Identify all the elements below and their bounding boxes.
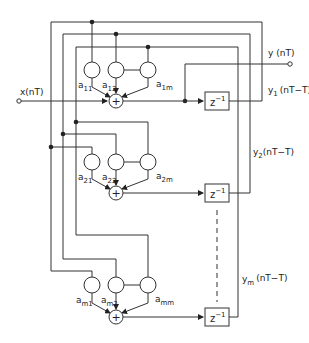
svg-text:am2: am2 xyxy=(101,295,118,308)
output-terminal xyxy=(288,62,292,66)
junction-dot xyxy=(114,32,119,37)
svg-text:+: + xyxy=(111,187,120,200)
coef-label: a12 xyxy=(102,80,116,93)
input-label: x(nT) xyxy=(20,87,44,97)
state-space-diagram: x(nT) y (nT) + a11 a12 a1m z−1 y1(nT−T) xyxy=(0,0,309,343)
feedback-bus-y1 xyxy=(49,20,262,280)
coefficient-a12 xyxy=(108,62,124,78)
junction-dot xyxy=(146,45,151,50)
svg-text:am1: am1 xyxy=(76,295,93,308)
junction-dot xyxy=(74,120,79,125)
state-label-y2: y2(nT−T) xyxy=(253,147,294,160)
svg-text:a22: a22 xyxy=(102,172,116,185)
svg-text:+: + xyxy=(111,311,120,324)
svg-text:a2m: a2m xyxy=(156,171,173,184)
coefficient-am1 xyxy=(84,277,100,293)
output-label: y (nT) xyxy=(268,48,294,58)
coef-label: a1m xyxy=(156,79,173,92)
svg-text:a21: a21 xyxy=(78,172,92,185)
svg-text:+: + xyxy=(111,95,120,108)
row-1: + a11 a12 a1m z−1 y1(nT−T) xyxy=(78,62,309,110)
input-x: x(nT) xyxy=(17,87,107,103)
junction-dot xyxy=(49,145,54,150)
coefficient-a11 xyxy=(84,62,100,78)
state-label-ym: ym(nT−T) xyxy=(242,273,287,287)
row-2: + a21 a22 a2m z−1 y2(nT−T) xyxy=(78,147,294,202)
coefficient-a2m xyxy=(140,154,156,170)
state-label-y1: y1(nT−T) xyxy=(268,85,309,98)
row-m: + am1 am2 amm z−1 ym(nT−T) xyxy=(76,273,287,326)
junction-dot xyxy=(90,20,95,25)
coef-label: a11 xyxy=(78,80,92,93)
junction-dot xyxy=(61,132,66,137)
input-terminal xyxy=(17,99,21,103)
coefficient-a1m xyxy=(140,62,156,78)
coefficient-a21 xyxy=(84,154,100,170)
svg-text:amm: amm xyxy=(155,294,174,307)
coefficient-a22 xyxy=(108,154,124,170)
coefficient-am2 xyxy=(108,277,124,293)
coefficient-amm xyxy=(140,277,156,293)
